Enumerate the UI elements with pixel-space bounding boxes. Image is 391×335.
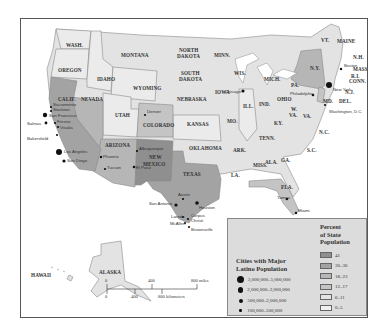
percent-bin-row: 0–5 xyxy=(320,305,343,311)
label-ill: ILL. xyxy=(243,103,254,109)
state-oregon xyxy=(51,49,89,79)
percent-legend-title: Percent of State Population xyxy=(320,223,350,246)
city-el-paso: El Paso xyxy=(136,165,151,170)
label-minn: MINN. xyxy=(214,52,231,58)
label-wyoming: WYOMING xyxy=(133,85,161,91)
state-kansas xyxy=(173,115,221,141)
city-boston: Boston xyxy=(344,63,358,68)
label-sc: S.C. xyxy=(307,147,317,153)
city-size-dot-icon xyxy=(239,299,243,303)
swatch-30-36 xyxy=(320,263,332,269)
map-legend: Percent of State Population Cities with … xyxy=(227,218,367,316)
percent-bin-row: 41 xyxy=(320,252,340,258)
city-san-francisco: San Francisco xyxy=(49,113,77,118)
label-vt: VT. xyxy=(321,37,330,43)
city-mcallen: McAllen xyxy=(170,221,186,226)
city-size-row: 500,000–2,000,000 xyxy=(237,298,286,303)
city-size-dot-icon xyxy=(238,287,244,293)
label-mich: MICH. xyxy=(264,76,281,82)
label-maine: MAINE xyxy=(337,38,356,44)
label-wis: WIS. xyxy=(234,70,246,76)
label-la: LA. xyxy=(231,172,240,178)
scale-km-400: 400 xyxy=(131,294,138,299)
city-size-row: 100,000–500,000 xyxy=(237,308,282,313)
label-north-dakota-2: DAKOTA xyxy=(177,53,200,59)
city-visalia: Visalia xyxy=(60,125,73,130)
city-size-row: 3,000,000–5,000,000 xyxy=(237,276,291,283)
scale-km-800: 800 kilometers xyxy=(158,294,185,299)
label-fla: FLA. xyxy=(281,184,294,190)
label-montana: MONTANA xyxy=(121,52,149,58)
label-ala: ALA. xyxy=(265,159,278,165)
city-size-row: 2,000,000–3,000,000 xyxy=(237,287,290,293)
city-austin: Austin xyxy=(178,192,191,197)
label-new-mexico-1: NEW xyxy=(149,154,162,160)
label-hawaii: HAWAII xyxy=(31,272,51,278)
percent-bin-row: 12–17 xyxy=(320,284,348,290)
label-idaho: IDAHO xyxy=(97,76,115,82)
cities-legend-title: Cities with Major Latino Population xyxy=(236,257,287,272)
city-houston: Houston xyxy=(199,205,216,210)
label-ga: GA. xyxy=(281,157,291,163)
label-ohio: OHIO xyxy=(277,96,292,102)
city-tucson: Tucson xyxy=(107,165,122,170)
city-los-angeles: Los Angeles xyxy=(64,149,87,154)
label-ny: N.Y. xyxy=(310,65,321,71)
swatch-18-23 xyxy=(320,273,332,279)
label-conn: CONN. xyxy=(349,78,367,84)
city-bakersfield: Bakersfield xyxy=(27,136,49,141)
city-new-york: New York xyxy=(333,87,352,92)
city-philadelphia: Philadelphia xyxy=(290,91,314,96)
swatch-0-5 xyxy=(320,305,332,311)
label-texas: TEXAS xyxy=(183,171,201,177)
label-wash: WASH. xyxy=(66,42,84,48)
percent-bin-row: 18–23 xyxy=(320,273,348,279)
city-stockton: Stockton xyxy=(53,107,70,112)
city-salinas: Salinas xyxy=(27,121,41,126)
label-mo: MO. xyxy=(227,118,238,124)
percent-bin-row: 30–36 xyxy=(320,263,348,269)
city-size-dot-icon xyxy=(239,309,242,312)
label-wva-2: VA. xyxy=(289,112,298,118)
city-miami: Miami xyxy=(298,208,310,213)
city-san-diego: San Diego xyxy=(67,158,88,163)
label-arizona: ARIZONA xyxy=(105,142,130,148)
label-utah: UTAH xyxy=(115,112,130,118)
city-phoenix: Phoenix xyxy=(103,154,119,159)
map-scale: 0 400 800 miles 0 400 800 kilometers xyxy=(105,278,205,302)
label-nevada: NEVADA xyxy=(81,96,103,102)
label-ark: ARK. xyxy=(233,147,247,153)
label-ky: KY. xyxy=(274,120,284,126)
scale-miles-800: 800 miles xyxy=(191,278,209,283)
label-oregon: OREGON xyxy=(58,67,82,73)
city-fresno: Fresno xyxy=(57,119,71,124)
label-nh: N.H. xyxy=(353,54,364,60)
label-kansas: KANSAS xyxy=(187,121,209,127)
state-hawaii xyxy=(51,267,73,281)
label-ind: IND. xyxy=(259,101,271,107)
city-san-antonio: San Antonio xyxy=(149,201,173,206)
scale-miles-0: 0 xyxy=(105,278,107,283)
label-south-dakota-2: DAKOTA xyxy=(179,76,202,82)
city-corpus-christi-2: Christi xyxy=(191,218,203,223)
city-tampa: Tampa xyxy=(277,195,291,200)
label-oklahoma: OKLAHOMA xyxy=(189,145,222,151)
label-tenn: TENN. xyxy=(259,135,276,141)
label-del: DEL. xyxy=(339,98,352,104)
swatch-41 xyxy=(320,252,332,258)
swatch-12-17 xyxy=(320,284,332,290)
label-colorado: COLORADO xyxy=(143,122,174,128)
label-md: MD. xyxy=(323,98,334,104)
swatch-6-11 xyxy=(320,294,332,300)
label-alaska: ALASKA xyxy=(99,269,121,275)
scale-km-0: 0 xyxy=(105,294,107,299)
label-nc: N.C. xyxy=(319,129,330,135)
city-albuquerque: Albuquerque xyxy=(139,146,164,151)
city-washington-dc: Washington, D.C. xyxy=(329,109,363,114)
city-size-dot-icon xyxy=(237,276,244,283)
percent-bin-row: 6–11 xyxy=(320,294,345,300)
label-va: VA. xyxy=(303,113,312,119)
city-denver: Denver xyxy=(147,109,161,114)
scale-miles-400: 400 xyxy=(148,278,155,283)
city-brownsville: Brownsville xyxy=(191,227,213,232)
